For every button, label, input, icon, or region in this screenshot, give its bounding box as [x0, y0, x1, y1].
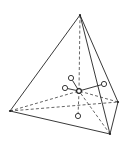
- center-point: [9, 14, 119, 135]
- hidden-edge-center-c4: [78, 91, 79, 116]
- hidden-edge-left-center: [10, 91, 79, 111]
- site-circle-icon: [62, 85, 67, 90]
- site-circle-icon: [68, 75, 73, 80]
- site-circle-icon: [101, 81, 106, 86]
- hidden-edge-right-center: [79, 91, 118, 102]
- diagram-svg: [0, 0, 127, 143]
- tetrahedron-diagram: [0, 0, 127, 143]
- center-atom-icon: [77, 89, 82, 94]
- vertex-left: [9, 110, 11, 112]
- vertex-bottom: [109, 133, 111, 135]
- edge-apex-left: [10, 15, 80, 111]
- hidden-edge-apex-center: [79, 15, 80, 91]
- spoke-c2: [68, 89, 78, 91]
- vertex-apex: [79, 14, 81, 16]
- edge-left-bottom: [10, 111, 110, 134]
- edge-right-bottom: [110, 102, 118, 134]
- vertex-right: [117, 101, 119, 103]
- hidden-edges: [10, 15, 118, 134]
- site-circles: [62, 75, 106, 118]
- spoke-c1: [72, 80, 78, 89]
- site-circle-icon: [75, 113, 80, 118]
- visible-edges: [10, 15, 118, 134]
